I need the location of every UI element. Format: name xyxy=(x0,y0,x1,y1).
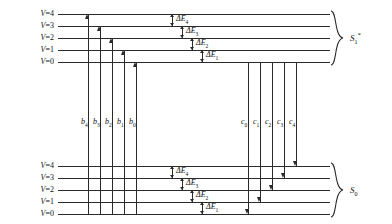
energy-level-diagram: V=4 V=3 V=2 V=1 V=0 V=4 V=3 V=2 V=1 xyxy=(0,0,392,224)
upper-delta-e-2-text: ΔE2 xyxy=(196,38,208,49)
emission-arrow-c1-head xyxy=(257,197,261,202)
absorption-arrow-b1-line xyxy=(124,50,125,214)
absorption-arrow-b2-line xyxy=(112,38,113,214)
emission-arrow-c2-line xyxy=(272,62,273,190)
upper-level-line-v1 xyxy=(58,50,330,51)
lower-delta-e-4-text: ΔE4 xyxy=(176,166,188,177)
absorption-arrow-b4-line xyxy=(88,14,89,214)
upper-level-line-v4 xyxy=(58,14,330,15)
upper-v-label-0: V=0 xyxy=(12,57,54,66)
lower-delta-e-1-text: ΔE1 xyxy=(206,202,218,213)
lower-level-line-v4 xyxy=(58,166,330,167)
lower-v-label-1: V=1 xyxy=(12,197,54,206)
lower-delta-e-2-text: ΔE2 xyxy=(196,190,208,201)
lower-v-label-4: V=4 xyxy=(12,161,54,170)
emission-arrow-c3-line xyxy=(284,62,285,178)
upper-v-label-1: V=1 xyxy=(12,45,54,54)
upper-v-label-2: V=2 xyxy=(12,33,54,42)
lower-v-label-0: V=0 xyxy=(12,209,54,218)
emission-arrow-c0-head xyxy=(245,209,249,214)
upper-v-label-4: V=4 xyxy=(12,9,54,18)
emission-arrow-c4-line xyxy=(296,62,297,166)
absorption-arrow-b3-head xyxy=(97,26,101,31)
lower-v-label-2: V=2 xyxy=(12,185,54,194)
upper-delta-e-1-text: ΔE1 xyxy=(206,50,218,61)
lower-level-line-v1 xyxy=(58,202,330,203)
emission-label-c1: c1 xyxy=(253,117,259,128)
absorption-label-b0: b0 xyxy=(129,117,136,128)
lower-state-brace-icon xyxy=(330,162,346,218)
absorption-arrow-b1-head xyxy=(121,50,125,55)
absorption-arrow-b2-head xyxy=(109,38,113,43)
upper-v-label-3: V=3 xyxy=(12,21,54,30)
absorption-arrow-b0-head xyxy=(133,62,137,67)
upper-delta-e-3-text: ΔE3 xyxy=(186,26,198,37)
emission-arrow-c1-line xyxy=(260,62,261,202)
emission-label-c2: c2 xyxy=(265,117,271,128)
lower-level-line-v0 xyxy=(58,214,330,215)
lower-delta-e-3-text: ΔE3 xyxy=(186,178,198,189)
upper-state-brace-icon xyxy=(330,10,346,66)
absorption-label-b1: b1 xyxy=(117,117,124,128)
emission-arrow-c3-head xyxy=(281,173,285,178)
absorption-label-b2: b2 xyxy=(105,117,112,128)
upper-level-line-v0 xyxy=(58,62,330,63)
upper-level-line-v2 xyxy=(58,38,330,39)
upper-delta-e-4-text: ΔE4 xyxy=(176,14,188,25)
emission-arrow-c0-line xyxy=(248,62,249,214)
upper-state-label: S1* xyxy=(350,31,361,45)
absorption-label-b4: b4 xyxy=(81,117,88,128)
lower-v-label-3: V=3 xyxy=(12,173,54,182)
absorption-arrow-b0-line xyxy=(136,62,137,214)
lower-state-label: S0 xyxy=(350,183,358,197)
emission-label-c4: c4 xyxy=(289,117,295,128)
emission-arrow-c2-head xyxy=(269,185,273,190)
emission-label-c3: c3 xyxy=(277,117,283,128)
lower-level-line-v2 xyxy=(58,190,330,191)
absorption-arrow-b3-line xyxy=(100,26,101,214)
absorption-arrow-b4-head xyxy=(85,14,89,19)
absorption-label-b3: b3 xyxy=(93,117,100,128)
emission-arrow-c4-head xyxy=(293,161,297,166)
emission-label-c0: c0 xyxy=(241,117,247,128)
